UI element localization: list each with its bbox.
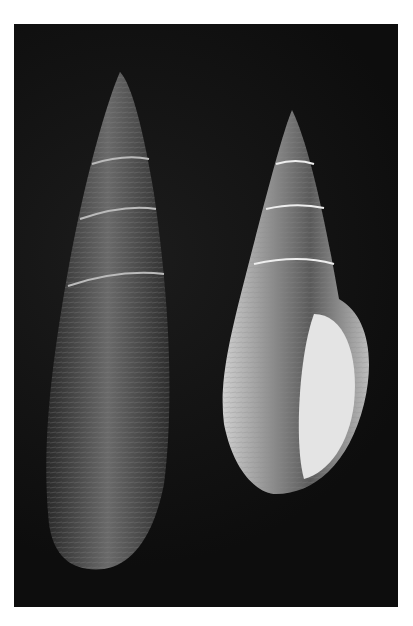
left-shell bbox=[46, 72, 169, 569]
shell-photograph bbox=[14, 24, 398, 607]
right-shell bbox=[223, 110, 369, 494]
shells-illustration bbox=[14, 24, 398, 607]
